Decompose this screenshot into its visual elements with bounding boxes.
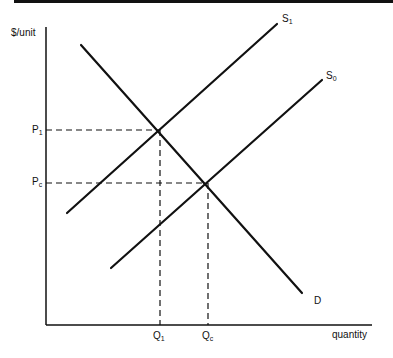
- supply-curve-s0: [111, 80, 322, 268]
- quantity-label-qc: Qc: [202, 331, 213, 341]
- y-axis-label: $/unit: [11, 28, 35, 38]
- demand-curve-d: [81, 45, 302, 293]
- price-label-pc: Pc: [32, 177, 42, 187]
- x-axis-label: quantity: [332, 330, 367, 340]
- quantity-label-q1: Q1: [153, 331, 165, 341]
- price-label-p1: P1: [32, 125, 43, 135]
- curve-label-d: D: [314, 296, 321, 306]
- curve-label-s0: S0: [326, 71, 337, 81]
- supply-curve-s1: [67, 24, 277, 213]
- supply-demand-diagram: [0, 0, 393, 358]
- curve-label-s1: S1: [282, 14, 293, 24]
